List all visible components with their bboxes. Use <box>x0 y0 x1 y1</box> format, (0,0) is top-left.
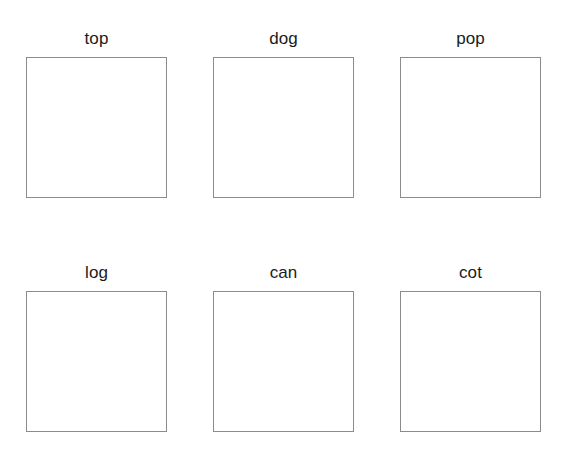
cell-box-top[interactable] <box>26 57 167 198</box>
cell-pop[interactable]: pop <box>399 28 542 198</box>
cell-label-log: log <box>85 262 108 283</box>
cell-box-cot[interactable] <box>400 291 541 432</box>
cell-label-top: top <box>85 28 109 49</box>
cell-label-cot: cot <box>459 262 482 283</box>
cell-box-log[interactable] <box>26 291 167 432</box>
cell-box-can[interactable] <box>213 291 354 432</box>
cell-can[interactable]: can <box>212 262 355 432</box>
cell-label-pop: pop <box>456 28 485 49</box>
cell-label-can: can <box>270 262 298 283</box>
cell-top[interactable]: top <box>25 28 168 198</box>
cell-dog[interactable]: dog <box>212 28 355 198</box>
cell-cot[interactable]: cot <box>399 262 542 432</box>
cell-box-dog[interactable] <box>213 57 354 198</box>
cell-log[interactable]: log <box>25 262 168 432</box>
worksheet-canvas: top dog pop log can cot <box>0 0 564 451</box>
cell-box-pop[interactable] <box>400 57 541 198</box>
grid-row-top: top dog pop <box>0 28 564 198</box>
cell-label-dog: dog <box>269 28 298 49</box>
grid-row-bottom: log can cot <box>0 262 564 432</box>
